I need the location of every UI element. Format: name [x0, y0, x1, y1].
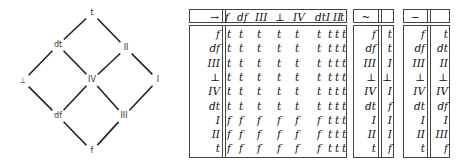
implication-cell: t: [317, 101, 321, 112]
implication-cell: f: [295, 115, 299, 126]
implication-cell: t: [227, 29, 231, 40]
implication-cell: f: [277, 129, 281, 140]
negation-row-label: I: [354, 115, 376, 126]
negation-row-label: ⊥: [354, 72, 376, 83]
implication-cell: t: [342, 86, 346, 97]
implication-body-box: ftttttttttdftttttttttIIIttttttttt⊥tttttt…: [189, 25, 347, 158]
complement-value: t: [431, 29, 448, 40]
negation-value: ⊥: [382, 72, 392, 83]
implication-cell: t: [277, 101, 281, 112]
implication-cell: t: [317, 29, 321, 40]
complement-row-label: t: [404, 143, 425, 154]
complement-value: f: [431, 143, 448, 154]
implication-cell: t: [317, 58, 321, 69]
implication-cell: t: [257, 86, 261, 97]
implication-cell: t: [257, 58, 261, 69]
lattice-node: ⊥: [20, 77, 27, 85]
implication-cell: t: [328, 43, 332, 54]
negation-value: I: [382, 115, 392, 126]
lattice-diagram: tdtII⊥IVIdfIIIf: [0, 0, 180, 166]
complement-value: I: [431, 115, 448, 126]
negation-header-box: ~: [353, 9, 394, 23]
implication-cell: f: [295, 129, 299, 140]
lattice-edge: [29, 87, 53, 111]
implication-cell: f: [317, 143, 321, 154]
implication-cell: t: [295, 58, 299, 69]
implication-row-label: ⊥: [190, 72, 220, 83]
implication-cell: f: [239, 115, 243, 126]
negation-row-label: f: [354, 29, 376, 40]
lattice-edge: [64, 18, 86, 39]
implication-cell: t: [227, 101, 231, 112]
implication-cell: f: [277, 115, 281, 126]
implication-cell: t: [277, 86, 281, 97]
implication-row-label: f: [190, 29, 220, 40]
implication-cell: f: [239, 143, 243, 154]
implication-row-label: dt: [190, 101, 220, 112]
lattice-edge: [98, 19, 121, 43]
implication-cell: t: [317, 43, 321, 54]
implication-cell: t: [342, 72, 346, 83]
negation-value: f: [382, 101, 392, 112]
implication-cell: t: [295, 72, 299, 83]
lattice-node: II: [124, 44, 129, 52]
complement-value: II: [431, 58, 448, 69]
implication-row-label: t: [190, 143, 220, 154]
complement-row-label: IV: [404, 86, 425, 97]
implication-cell: t: [277, 29, 281, 40]
negation-value: I: [382, 129, 392, 140]
negation-row-label: IV: [354, 86, 376, 97]
implication-cell: t: [335, 86, 339, 97]
implication-cell: t: [335, 129, 339, 140]
implication-cell: t: [328, 101, 332, 112]
implication-column-header: f: [225, 12, 229, 23]
implication-cell: t: [277, 72, 281, 83]
implication-cell: t: [295, 86, 299, 97]
implication-cell: t: [239, 29, 243, 40]
lattice-node: I: [157, 76, 159, 84]
implication-cell: t: [335, 29, 339, 40]
implication-cell: t: [295, 43, 299, 54]
implication-cell: t: [335, 115, 339, 126]
complement-value: df: [431, 101, 448, 112]
lattice-edge: [64, 51, 87, 75]
implication-row-label: I: [190, 115, 220, 126]
implication-column-header: t: [340, 12, 344, 23]
implication-cell: t: [335, 72, 339, 83]
complement-row-label: III: [404, 58, 425, 69]
implication-cell: t: [239, 86, 243, 97]
implication-column-header: df: [237, 12, 248, 23]
implication-cell: f: [257, 115, 261, 126]
complement-body-box: ftdfdtIIIII⊥⊥IVIVdtdfIIIIIIItf: [403, 25, 450, 158]
negation-row-label: df: [354, 43, 376, 54]
implication-cell: t: [277, 43, 281, 54]
implication-cell: t: [239, 101, 243, 112]
implication-row-label: df: [190, 43, 220, 54]
implication-column-header: IV: [293, 12, 305, 23]
implication-cell: f: [257, 143, 261, 154]
implication-cell: t: [239, 58, 243, 69]
implication-cell: t: [239, 72, 243, 83]
negation-value: I: [382, 58, 392, 69]
implication-cell: t: [335, 43, 339, 54]
lattice-edge: [97, 122, 118, 145]
implication-cell: f: [257, 129, 261, 140]
negation-row-label: II: [354, 129, 376, 140]
implication-cell: t: [328, 86, 332, 97]
implication-cell: f: [277, 143, 281, 154]
implication-cell: t: [227, 72, 231, 83]
implication-cell: f: [317, 115, 321, 126]
implication-column-header: dt: [315, 12, 326, 23]
negation-value: f: [382, 143, 392, 154]
negation-value: I: [382, 86, 392, 97]
implication-cell: f: [317, 129, 321, 140]
complement-row-label: df: [404, 43, 425, 54]
implication-cell: t: [317, 86, 321, 97]
implication-column-header: I: [326, 12, 330, 23]
implication-cell: t: [328, 129, 332, 140]
implication-cell: f: [239, 129, 243, 140]
implication-cell: t: [342, 115, 346, 126]
lattice-node: df: [54, 112, 62, 120]
implication-cell: t: [328, 115, 332, 126]
implication-row-label: II: [190, 129, 220, 140]
